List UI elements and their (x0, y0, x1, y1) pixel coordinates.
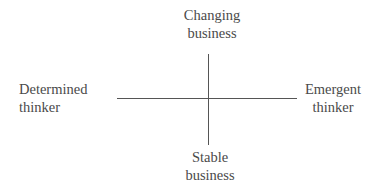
top-label-line-2: business (172, 24, 252, 42)
bottom-axis-label: Stable business (170, 148, 250, 184)
horizontal-axis-line (117, 98, 297, 99)
right-axis-label: Emergent thinker (300, 80, 366, 116)
vertical-axis-line (208, 54, 209, 145)
left-axis-label: Determined thinker (19, 80, 87, 116)
bottom-label-line-1: Stable (170, 148, 250, 166)
left-label-line-2: thinker (19, 98, 87, 116)
left-label-line-1: Determined (19, 80, 87, 98)
right-label-line-2: thinker (300, 98, 366, 116)
top-label-line-1: Changing (172, 6, 252, 24)
right-label-line-1: Emergent (300, 80, 366, 98)
bottom-label-line-2: business (170, 166, 250, 184)
top-axis-label: Changing business (172, 6, 252, 42)
